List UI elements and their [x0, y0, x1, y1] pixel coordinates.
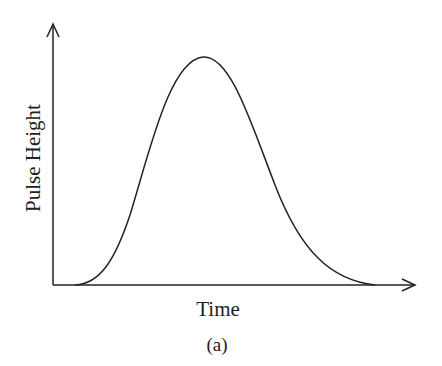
- y-axis-label: Pulse Height: [21, 104, 46, 212]
- pulse-curve: [75, 57, 375, 285]
- x-axis-label: Time: [196, 297, 240, 322]
- figure-caption: (a): [206, 334, 227, 356]
